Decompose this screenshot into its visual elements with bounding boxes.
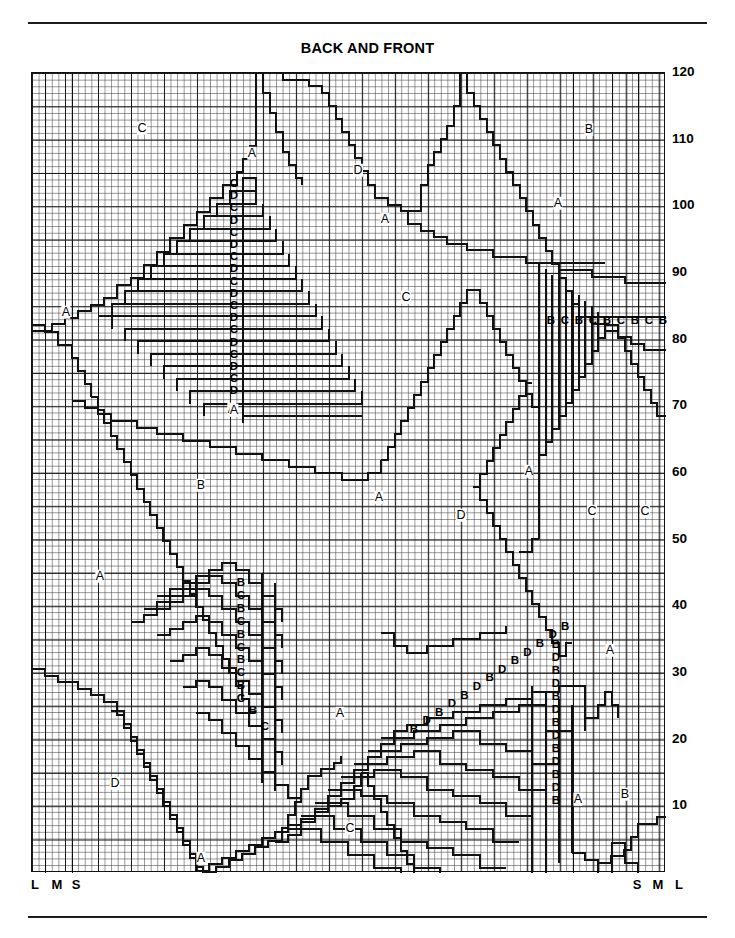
stack-bd-column-letter-12: B (552, 795, 560, 807)
axis-tick-60: 60 (672, 465, 687, 479)
stack-cd-letter-12: C (230, 325, 238, 337)
stack-bc-right-letter-5: C (617, 315, 625, 327)
stack-cd-letter-3: D (230, 215, 238, 227)
axis-tick-40: 40 (672, 599, 687, 613)
stack-cd-letter-11: D (230, 312, 238, 324)
stack-bc-right-letter-3: C (589, 315, 597, 327)
page-title: BACK AND FRONT (0, 40, 735, 56)
stack-bc-right-letter-6: B (631, 315, 639, 327)
stack-cd-bottom-letter: A (229, 404, 238, 417)
stack-bc-lower-letter-8: B (237, 680, 245, 692)
size-divider-right-s (573, 73, 574, 873)
stack-bd-column-letter-8: B (552, 743, 560, 755)
size-divider-right-l (638, 73, 639, 873)
size-label-left-m: M (52, 878, 63, 891)
stack-cd-letter-6: C (230, 251, 238, 263)
region-letter-b-3: B (584, 123, 593, 136)
axis-tick-10: 10 (672, 799, 687, 813)
stack-bc-lower-letter-0: B (237, 577, 245, 589)
region-letter-c-21: C (345, 822, 355, 835)
stack-cd-letter-10: C (230, 300, 238, 312)
stack-bc-lower-tail-0: B (249, 705, 257, 717)
region-letter-d-11: D (456, 509, 466, 522)
size-label-left-l: L (31, 878, 39, 891)
stack-bd-column-letter-0: B (552, 639, 560, 651)
stack-bd-diag-letter-9: D (523, 647, 531, 659)
stack-cd-letter-8: C (230, 276, 238, 288)
region-letter-d-2: D (353, 164, 363, 177)
size-label-right-s: S (633, 878, 642, 891)
stack-cd-letter-1: D (230, 190, 238, 202)
region-letter-c-14: C (640, 505, 650, 518)
stack-bc-lower-letter-5: C (237, 642, 245, 654)
region-letter-a-10: A (374, 491, 383, 504)
stack-bc-lower-letter-9: C (237, 693, 245, 705)
axis-tick-50: 50 (672, 532, 687, 546)
stack-bd-column-letter-11: D (552, 782, 560, 794)
stack-bc-lower-letter-2: B (237, 603, 245, 615)
stack-bd-diag-letter-6: B (485, 673, 493, 685)
stack-bd-diag-letter-0: B (410, 724, 418, 736)
stack-cd-letter-15: D (230, 361, 238, 373)
axis-tick-20: 20 (672, 732, 687, 746)
axis-tick-120: 120 (672, 65, 695, 79)
size-divider-left-m (72, 73, 73, 873)
region-letter-a-19: A (573, 793, 582, 806)
region-letter-a-16: A (605, 644, 614, 657)
top-rule (28, 22, 707, 24)
stack-cd-letter-2: C (230, 203, 238, 215)
stack-bc-lower-letter-6: B (237, 655, 245, 667)
region-letter-a-12: A (524, 465, 533, 478)
stack-cd-letter-4: C (230, 227, 238, 239)
pattern-grid (31, 72, 665, 872)
region-letter-b-20: B (620, 788, 629, 801)
stack-bd-diag-letter-7: D (498, 664, 506, 676)
stack-bd-diag-letter-10: B (536, 638, 544, 650)
region-letter-a-17: A (335, 707, 344, 720)
size-label-right-l: L (675, 878, 683, 891)
region-letter-b-9: B (196, 479, 205, 492)
stack-bc-right-letter-1: C (561, 315, 569, 327)
stack-bc-right-letter-0: B (547, 315, 555, 327)
stack-bd-diag-letter-3: D (448, 698, 456, 710)
bottom-rule (28, 916, 707, 918)
stack-bd-diag-letter-2: B (435, 707, 443, 719)
size-divider-right-m (612, 73, 613, 873)
coarse-gridlines (32, 73, 664, 871)
grid-background (32, 73, 664, 871)
stack-bd-column-letter-6: B (552, 717, 560, 729)
region-letter-c-7: C (401, 291, 411, 304)
region-letter-a-22: A (196, 852, 205, 865)
stack-cd-letter-14: C (230, 349, 238, 361)
region-letter-c-0: C (137, 122, 147, 135)
region-letter-a-5: A (553, 197, 562, 210)
stack-cd-letter-9: D (230, 288, 238, 300)
axis-tick-80: 80 (672, 332, 687, 346)
stack-bc-right-letter-4: B (603, 315, 611, 327)
stack-bd-column-letter-2: B (552, 665, 560, 677)
region-letter-c-13: C (587, 505, 597, 518)
stack-bc-lower-letter-7: C (237, 668, 245, 680)
axis-tick-110: 110 (672, 132, 694, 146)
stack-bc-right-letter-8: B (659, 315, 667, 327)
stack-bc-lower-tail-1: C (261, 721, 269, 733)
stack-bc-lower-letter-4: B (237, 629, 245, 641)
size-divider-left-l (45, 73, 46, 873)
stack-cd-letter-17: D (230, 386, 238, 398)
stack-bc-right-letter-7: C (645, 315, 653, 327)
stack-bd-column-letter-10: B (552, 769, 560, 781)
stack-cd-letter-0: C (230, 178, 238, 190)
stack-bc-right-letter-2: B (575, 315, 583, 327)
stack-bd-diag-letter-5: D (473, 681, 481, 693)
stack-bd-diag-letter-8: B (511, 655, 519, 667)
region-letter-a-1: A (247, 147, 256, 160)
region-letter-d-18: D (110, 777, 120, 790)
stack-cd-letter-7: D (230, 264, 238, 276)
stack-bd-diag-letter-12: B (561, 621, 569, 633)
stack-bd-column-letter-3: D (552, 678, 560, 690)
stack-bc-lower-letter-1: C (237, 590, 245, 602)
stack-cd-letter-16: C (230, 373, 238, 385)
axis-tick-100: 100 (672, 199, 695, 213)
stack-bd-diag-letter-4: B (460, 690, 468, 702)
stack-bd-column-letter-4: B (552, 691, 560, 703)
